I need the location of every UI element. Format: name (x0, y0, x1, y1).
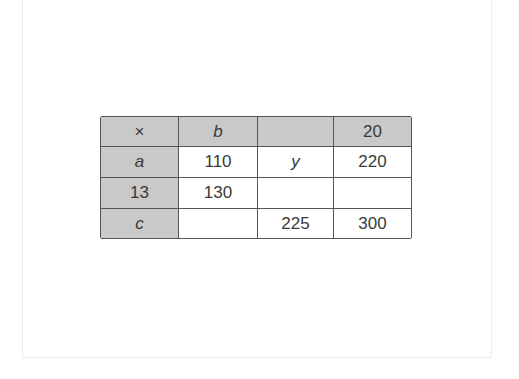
table-cell-r1-c2: y (258, 147, 334, 178)
header-operator-cell: × (101, 117, 179, 147)
table-cell-r2-c1: 130 (179, 178, 258, 209)
header-cell-col1: b (179, 117, 258, 147)
table-cell-r2-c3 (334, 178, 411, 209)
table-cell-r3-c1 (179, 209, 258, 238)
table-cell-r3-c3: 300 (334, 209, 411, 238)
table-cell-r2-c2 (258, 178, 334, 209)
table-cell-r1-c1: 110 (179, 147, 258, 178)
header-cell-col2 (258, 117, 334, 147)
row-header-cell-2: 13 (101, 178, 179, 209)
table-cell-r1-c3: 220 (334, 147, 411, 178)
multiplication-table: × b 20 a 110 y 220 13 130 c 225 300 (100, 116, 412, 239)
header-cell-col3: 20 (334, 117, 411, 147)
row-header-cell-3: c (101, 209, 179, 238)
table-cell-r3-c2: 225 (258, 209, 334, 238)
row-header-cell-1: a (101, 147, 179, 178)
